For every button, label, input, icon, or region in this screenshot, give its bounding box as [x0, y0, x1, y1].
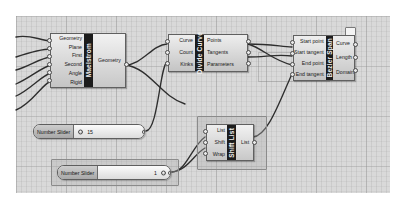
port-out-list[interactable]: List	[241, 140, 249, 145]
number-slider-bottom[interactable]: Number Slider 1	[57, 165, 171, 180]
shift-list-outputs: List	[236, 125, 253, 160]
nub-in-plane[interactable]	[47, 46, 52, 51]
number-slider-top-knob[interactable]	[78, 129, 83, 134]
port-in-geometry[interactable]: Geometry	[59, 36, 82, 41]
number-slider-bottom-output-nub[interactable]	[168, 170, 171, 175]
nub-in-geometry[interactable]	[47, 38, 52, 43]
nub-in-kinks[interactable]	[165, 61, 170, 66]
nub-in-count[interactable]	[165, 50, 170, 55]
port-out-length[interactable]: Length	[336, 55, 352, 60]
number-slider-bottom-label: Number Slider	[58, 166, 98, 179]
maelstrom-outputs: Geometry	[93, 34, 125, 87]
port-in-rigid[interactable]: Rigid	[70, 80, 82, 85]
port-out-points[interactable]: Points	[207, 38, 221, 43]
maelstrom-title-bar[interactable]: Maelstrom	[84, 34, 93, 87]
port-in-first[interactable]: First	[72, 53, 82, 58]
maelstrom-title: Maelstrom	[85, 43, 92, 77]
nub-in-second[interactable]	[47, 62, 52, 67]
shift-list-inputs: List Shift Wrap	[207, 125, 227, 160]
component-maelstrom[interactable]: Geometry Plane First Second Angle Rigid …	[50, 33, 126, 88]
port-out-curve[interactable]: Curve	[336, 41, 350, 46]
nub-in-curve[interactable]	[165, 39, 170, 44]
port-out-domain[interactable]: Domain	[336, 70, 354, 75]
port-in-start-tangent[interactable]: Start tangent	[294, 50, 324, 55]
number-slider-top[interactable]: Number Slider 15	[33, 124, 145, 139]
port-in-start-point[interactable]: Start point	[300, 39, 324, 44]
number-slider-top-output-nub[interactable]	[142, 129, 145, 134]
number-slider-bottom-track[interactable]: 1	[98, 166, 170, 179]
divide-curve-inputs: Curve Count Kinks	[169, 35, 195, 71]
nub-out-length[interactable]	[353, 55, 358, 60]
app-window: Geometry Plane First Second Angle Rigid …	[0, 0, 405, 210]
component-bezier-span[interactable]: Start point Start tangent End point End …	[293, 35, 355, 81]
number-slider-top-label: Number Slider	[34, 125, 74, 138]
nub-out-points[interactable]	[246, 39, 251, 44]
nub-in-list[interactable]	[203, 129, 208, 134]
port-out-parameters[interactable]: Parameters	[207, 62, 234, 67]
divide-curve-title-bar[interactable]: Divide Curve	[195, 35, 204, 71]
divide-curve-outputs: Points Tangents Parameters	[204, 35, 247, 71]
nub-in-start-tangent[interactable]	[290, 51, 295, 56]
port-in-kinks[interactable]: Kinks	[180, 62, 193, 67]
port-in-shift[interactable]: Shift	[215, 140, 225, 145]
port-in-angle[interactable]: Angle	[69, 71, 82, 76]
component-divide-curve[interactable]: Curve Count Kinks Divide Curve Points Ta…	[168, 34, 248, 72]
maelstrom-inputs: Geometry Plane First Second Angle Rigid	[51, 34, 84, 87]
number-slider-bottom-value: 1	[154, 170, 157, 176]
number-slider-bottom-knob[interactable]	[161, 170, 166, 175]
port-in-plane[interactable]: Plane	[69, 45, 82, 50]
port-in-list[interactable]: List	[217, 128, 225, 133]
port-in-end-tangent[interactable]: End tangent	[296, 72, 324, 77]
number-slider-top-value: 15	[87, 129, 93, 135]
nub-out-parameters[interactable]	[246, 61, 251, 66]
nub-out-list[interactable]	[252, 140, 257, 145]
port-in-curve[interactable]: Curve	[179, 38, 193, 43]
nub-in-angle[interactable]	[47, 70, 52, 75]
nub-in-shift[interactable]	[203, 140, 208, 145]
bezier-span-inputs: Start point Start tangent End point End …	[294, 36, 326, 80]
nub-out-tangents[interactable]	[246, 50, 251, 55]
port-in-second[interactable]: Second	[64, 62, 82, 67]
nub-in-end-point[interactable]	[290, 62, 295, 67]
shift-list-title: Shift List	[228, 128, 235, 158]
bezier-span-title: Bezier Span	[326, 38, 333, 77]
port-in-end-point[interactable]: End point	[302, 61, 324, 66]
number-slider-top-track[interactable]: 15	[74, 125, 144, 138]
shift-list-title-bar[interactable]: Shift List	[227, 125, 236, 160]
nub-in-end-tangent[interactable]	[290, 72, 295, 77]
nub-in-wrap[interactable]	[203, 151, 208, 156]
divide-curve-title: Divide Curve	[196, 32, 203, 74]
nub-in-rigid[interactable]	[47, 78, 52, 83]
nub-out-domain[interactable]	[353, 68, 358, 73]
nub-out-geometry[interactable]	[124, 62, 129, 67]
nub-out-curve[interactable]	[353, 42, 358, 47]
nub-in-start-point[interactable]	[290, 40, 295, 45]
port-in-wrap[interactable]: Wrap	[213, 152, 225, 157]
port-out-geometry[interactable]: Geometry	[98, 58, 121, 63]
port-in-count[interactable]: Count	[179, 50, 193, 55]
bezier-span-outputs: Curve Length Domain	[333, 36, 354, 80]
nub-in-first[interactable]	[47, 54, 52, 59]
port-out-tangents[interactable]: Tangents	[207, 50, 228, 55]
bezier-span-title-bar[interactable]: Bezier Span	[326, 36, 333, 80]
component-shift-list[interactable]: List Shift Wrap Shift List List	[206, 124, 254, 161]
